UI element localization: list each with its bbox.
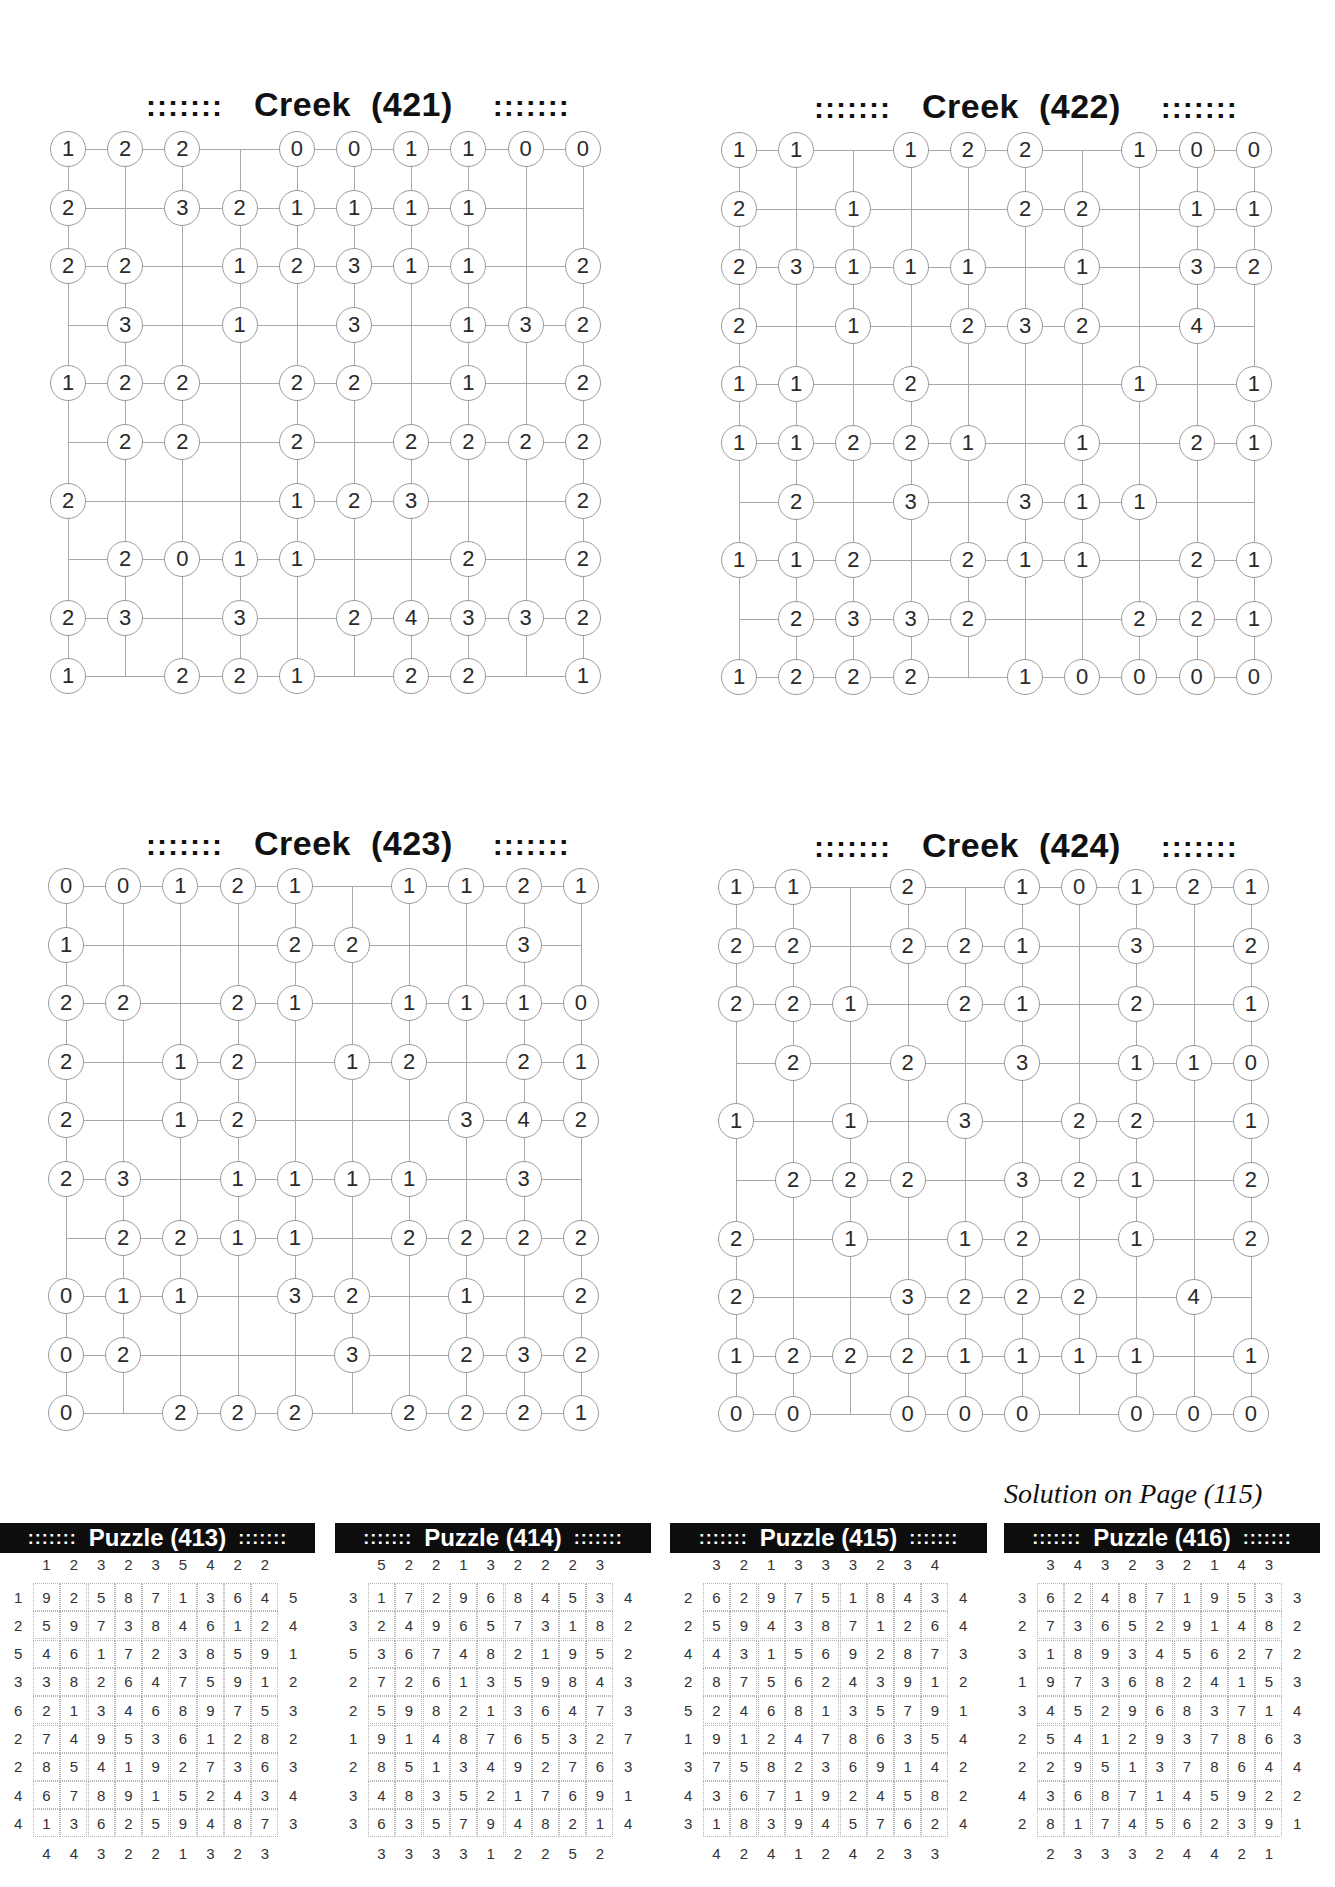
- clue-node[interactable]: 3: [893, 601, 929, 637]
- clue-node[interactable]: 2: [778, 659, 814, 695]
- clue-node[interactable]: 2: [391, 1395, 427, 1431]
- clue-node[interactable]: 0: [565, 131, 601, 167]
- clue-node[interactable]: 2: [835, 659, 871, 695]
- clue-node[interactable]: 1: [1004, 1338, 1040, 1374]
- clue-node[interactable]: 3: [893, 484, 929, 520]
- clue-node[interactable]: 2: [947, 1279, 983, 1315]
- clue-node[interactable]: 1: [563, 868, 599, 904]
- clue-node[interactable]: 2: [893, 366, 929, 402]
- clue-node[interactable]: 2: [1179, 425, 1215, 461]
- clue-node[interactable]: 1: [947, 1221, 983, 1257]
- clue-node[interactable]: 4: [1179, 308, 1215, 344]
- clue-node[interactable]: 2: [1061, 1279, 1097, 1315]
- clue-node[interactable]: 1: [778, 425, 814, 461]
- clue-node[interactable]: 3: [450, 600, 486, 636]
- clue-node[interactable]: 0: [48, 1337, 84, 1373]
- clue-node[interactable]: 2: [336, 483, 372, 519]
- clue-node[interactable]: 0: [48, 868, 84, 904]
- clue-node[interactable]: 2: [105, 985, 141, 1021]
- clue-node[interactable]: 1: [832, 986, 868, 1022]
- clue-node[interactable]: 2: [835, 542, 871, 578]
- clue-node[interactable]: 0: [336, 131, 372, 167]
- clue-node[interactable]: 1: [50, 131, 86, 167]
- clue-node[interactable]: 1: [391, 985, 427, 1021]
- clue-node[interactable]: 2: [107, 365, 143, 401]
- clue-node[interactable]: 1: [391, 868, 427, 904]
- clue-node[interactable]: 0: [1236, 659, 1272, 695]
- clue-node[interactable]: 1: [162, 1102, 198, 1138]
- clue-node[interactable]: 1: [1064, 249, 1100, 285]
- clue-node[interactable]: 2: [1004, 1279, 1040, 1315]
- clue-node[interactable]: 2: [775, 1162, 811, 1198]
- clue-node[interactable]: 1: [222, 248, 258, 284]
- clue-node[interactable]: 3: [506, 927, 542, 963]
- clue-node[interactable]: 2: [48, 985, 84, 1021]
- clue-node[interactable]: 2: [1061, 1103, 1097, 1139]
- clue-node[interactable]: 3: [448, 1102, 484, 1138]
- clue-node[interactable]: 3: [1179, 249, 1215, 285]
- clue-node[interactable]: 3: [105, 1161, 141, 1197]
- clue-node[interactable]: 2: [220, 868, 256, 904]
- clue-node[interactable]: 0: [279, 131, 315, 167]
- clue-node[interactable]: 2: [1061, 1162, 1097, 1198]
- clue-node[interactable]: 2: [1118, 1103, 1154, 1139]
- clue-node[interactable]: 2: [107, 248, 143, 284]
- clue-node[interactable]: 2: [890, 1045, 926, 1081]
- clue-node[interactable]: 2: [832, 1338, 868, 1374]
- clue-node[interactable]: 1: [835, 249, 871, 285]
- clue-node[interactable]: 2: [50, 248, 86, 284]
- clue-node[interactable]: 1: [334, 1161, 370, 1197]
- clue-node[interactable]: 1: [835, 191, 871, 227]
- clue-node[interactable]: 3: [947, 1103, 983, 1139]
- clue-node[interactable]: 1: [1064, 542, 1100, 578]
- clue-node[interactable]: 1: [778, 542, 814, 578]
- clue-node[interactable]: 2: [393, 658, 429, 694]
- clue-node[interactable]: 1: [1236, 542, 1272, 578]
- clue-node[interactable]: 2: [565, 365, 601, 401]
- clue-node[interactable]: 2: [950, 601, 986, 637]
- clue-node[interactable]: 1: [778, 366, 814, 402]
- clue-node[interactable]: 1: [835, 308, 871, 344]
- clue-node[interactable]: 2: [50, 600, 86, 636]
- clue-node[interactable]: 1: [105, 1278, 141, 1314]
- clue-node[interactable]: 2: [450, 424, 486, 460]
- clue-node[interactable]: 2: [1233, 928, 1269, 964]
- clue-node[interactable]: 1: [1004, 928, 1040, 964]
- clue-node[interactable]: 2: [565, 248, 601, 284]
- clue-node[interactable]: 1: [48, 927, 84, 963]
- clue-node[interactable]: 2: [1007, 191, 1043, 227]
- clue-node[interactable]: 2: [1179, 542, 1215, 578]
- clue-node[interactable]: 1: [277, 868, 313, 904]
- clue-node[interactable]: 2: [222, 658, 258, 694]
- clue-node[interactable]: 4: [506, 1102, 542, 1138]
- clue-node[interactable]: 2: [832, 1162, 868, 1198]
- clue-node[interactable]: 1: [721, 366, 757, 402]
- clue-node[interactable]: 0: [48, 1395, 84, 1431]
- clue-node[interactable]: 1: [721, 659, 757, 695]
- clue-node[interactable]: 2: [48, 1044, 84, 1080]
- clue-node[interactable]: 2: [1004, 1221, 1040, 1257]
- clue-node[interactable]: 2: [775, 928, 811, 964]
- clue-node[interactable]: 1: [1233, 869, 1269, 905]
- clue-node[interactable]: 2: [890, 1338, 926, 1374]
- clue-node[interactable]: 0: [775, 1396, 811, 1432]
- clue-node[interactable]: 2: [1118, 986, 1154, 1022]
- clue-node[interactable]: 2: [565, 541, 601, 577]
- clue-node[interactable]: 2: [277, 927, 313, 963]
- clue-node[interactable]: 4: [1176, 1279, 1212, 1315]
- clue-node[interactable]: 2: [1179, 601, 1215, 637]
- clue-node[interactable]: 3: [164, 190, 200, 226]
- clue-node[interactable]: 2: [164, 365, 200, 401]
- clue-node[interactable]: 2: [565, 424, 601, 460]
- clue-node[interactable]: 3: [508, 600, 544, 636]
- clue-node[interactable]: 1: [222, 541, 258, 577]
- clue-node[interactable]: 3: [336, 307, 372, 343]
- clue-node[interactable]: 2: [775, 1045, 811, 1081]
- clue-node[interactable]: 1: [277, 985, 313, 1021]
- clue-node[interactable]: 0: [1064, 659, 1100, 695]
- clue-node[interactable]: 0: [718, 1396, 754, 1432]
- clue-node[interactable]: 1: [778, 132, 814, 168]
- clue-node[interactable]: 1: [565, 658, 601, 694]
- clue-node[interactable]: 2: [279, 365, 315, 401]
- clue-node[interactable]: 2: [775, 986, 811, 1022]
